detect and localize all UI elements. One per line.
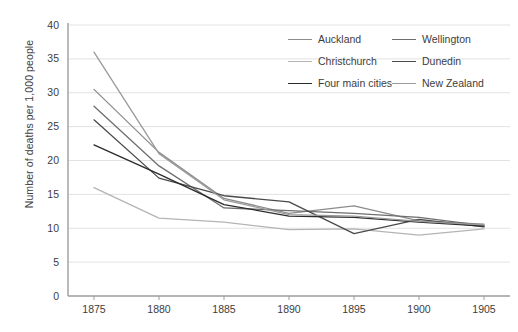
- legend-item[interactable]: Dunedin: [392, 55, 512, 67]
- legend-swatch-icon: [288, 61, 312, 62]
- y-tick-label: 25: [47, 120, 59, 132]
- y-tick-label: 15: [47, 188, 59, 200]
- x-tick-label: 1895: [342, 303, 366, 315]
- legend-swatch-icon: [392, 83, 416, 84]
- x-tick-label: 1885: [212, 303, 236, 315]
- x-tick-labels: 1875188018851890189519001905: [82, 296, 496, 315]
- chart-legend: AucklandWellingtonChristchurchDunedinFou…: [288, 28, 512, 94]
- series-line: [94, 89, 484, 224]
- legend-item[interactable]: Four main cities: [288, 77, 392, 89]
- y-tick-label: 20: [47, 154, 59, 166]
- x-tick-label: 1880: [147, 303, 171, 315]
- y-tick-label: 5: [53, 256, 59, 268]
- legend-item[interactable]: Auckland: [288, 33, 392, 45]
- legend-label: New Zealand: [422, 77, 484, 89]
- x-tick-label: 1890: [277, 303, 301, 315]
- legend-item[interactable]: Wellington: [392, 33, 512, 45]
- legend-swatch-icon: [392, 39, 416, 40]
- legend-label: Dunedin: [422, 55, 461, 67]
- x-tick-label: 1900: [407, 303, 431, 315]
- y-tick-label: 10: [47, 222, 59, 234]
- legend-swatch-icon: [288, 39, 312, 40]
- y-tick-labels: 0510152025303540: [47, 19, 59, 302]
- legend-item[interactable]: Christchurch: [288, 55, 392, 67]
- legend-label: Wellington: [422, 33, 471, 45]
- legend-swatch-icon: [288, 83, 312, 84]
- series-line: [94, 106, 484, 225]
- y-tick-label: 35: [47, 52, 59, 64]
- legend-label: Christchurch: [318, 55, 377, 67]
- legend-label: Four main cities: [318, 77, 392, 89]
- y-tick-label: 30: [47, 86, 59, 98]
- legend-swatch-icon: [392, 61, 416, 62]
- y-axis-label: Number of deaths per 1,000 people: [23, 9, 35, 239]
- y-tick-label: 0: [53, 290, 59, 302]
- x-tick-label: 1905: [472, 303, 496, 315]
- series-line: [94, 145, 484, 226]
- y-tick-label: 40: [47, 19, 59, 31]
- legend-label: Auckland: [318, 33, 361, 45]
- chart-container: 0510152025303540 18751880188518901895190…: [0, 0, 518, 332]
- legend-item[interactable]: New Zealand: [392, 77, 512, 89]
- x-tick-label: 1875: [82, 303, 106, 315]
